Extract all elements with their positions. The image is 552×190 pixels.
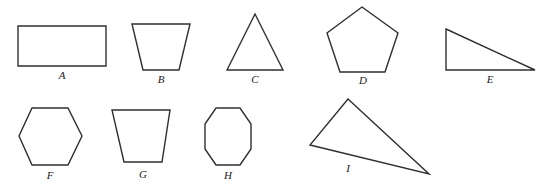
shape-h: H [205, 108, 251, 181]
shape-label-a: A [58, 69, 66, 81]
octagon-outline [205, 108, 251, 165]
trapezoid-narrow-bottom-outline [132, 24, 190, 70]
shape-label-e: E [486, 73, 494, 85]
shape-label-d: D [358, 74, 367, 86]
shape-label-h: H [223, 169, 233, 181]
triangle-scalene-obtuse-outline [310, 99, 429, 174]
shape-i: I [310, 99, 429, 174]
shape-g: G [112, 110, 170, 180]
shape-label-f: F [46, 169, 54, 181]
shape-label-i: I [345, 162, 351, 174]
shape-f: F [19, 108, 82, 181]
shapes-figure: ABCDEFGHI [0, 0, 552, 190]
triangle-isosceles-outline [227, 14, 283, 70]
hexagon-outline [19, 108, 82, 165]
pentagon-outline [327, 7, 398, 72]
shape-b: B [132, 24, 190, 85]
right-triangle-outline [446, 29, 535, 70]
shapes-group: ABCDEFGHI [18, 7, 535, 181]
shape-label-g: G [139, 168, 147, 180]
rectangle-outline [18, 26, 106, 66]
shape-d: D [327, 7, 398, 86]
shape-e: E [446, 29, 535, 85]
shape-label-c: C [251, 73, 259, 85]
shape-a: A [18, 26, 106, 81]
shapes-canvas: ABCDEFGHI [0, 0, 552, 190]
shape-label-b: B [158, 73, 165, 85]
trapezoid-narrow-bottom-outline [112, 110, 170, 162]
shape-c: C [227, 14, 283, 85]
